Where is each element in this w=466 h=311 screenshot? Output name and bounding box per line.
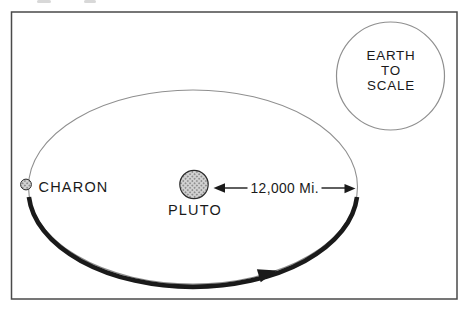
cropped-text-remnant — [37, 0, 51, 3]
earth-scale-label-line1: EARTH — [366, 48, 415, 63]
earth-scale-label-line2: TO — [381, 63, 401, 78]
charon-label: CHARON — [39, 179, 109, 195]
pluto-body — [180, 170, 208, 198]
charon-body — [21, 179, 32, 190]
earth-scale-label-line3: SCALE — [367, 78, 415, 93]
distance-label: 12,000 Mi. — [251, 181, 319, 196]
cropped-text-remnant — [84, 0, 96, 3]
orbit-diagram: EARTH TO SCALE CHARON PLUTO 12,000 Mi. — [0, 0, 466, 311]
pluto-label: PLUTO — [168, 202, 222, 218]
